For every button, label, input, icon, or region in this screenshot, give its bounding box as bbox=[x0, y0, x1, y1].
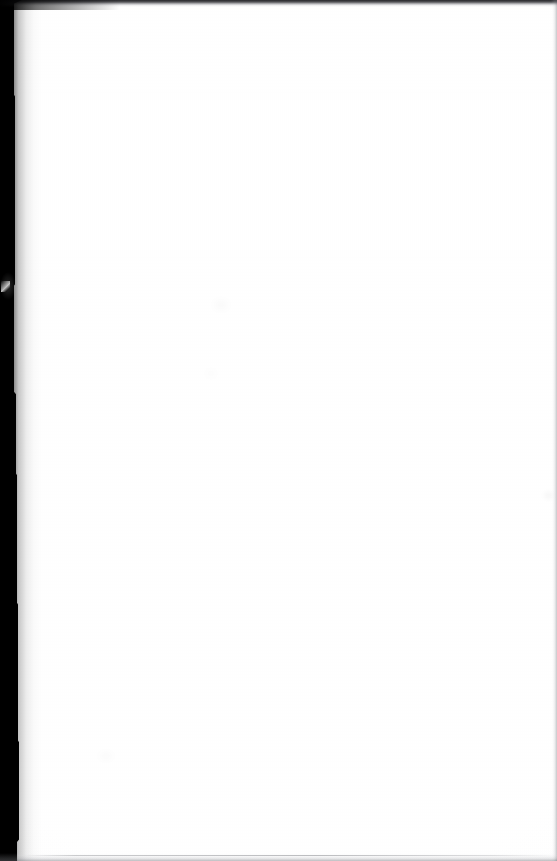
bottom-edge-hairline bbox=[22, 855, 557, 856]
left-gutter-shadow bbox=[0, 0, 22, 861]
scan-smudge bbox=[544, 492, 553, 499]
paper-grain-texture bbox=[0, 0, 557, 861]
bottom-page-edge bbox=[0, 853, 557, 861]
scan-smudge bbox=[100, 752, 112, 760]
scan-smudge bbox=[206, 370, 216, 377]
top-scan-edge bbox=[0, 0, 557, 7]
scanned-page: Blank scanned page bbox=[0, 0, 557, 861]
scan-smudge bbox=[214, 300, 228, 310]
right-page-edge bbox=[551, 0, 557, 861]
